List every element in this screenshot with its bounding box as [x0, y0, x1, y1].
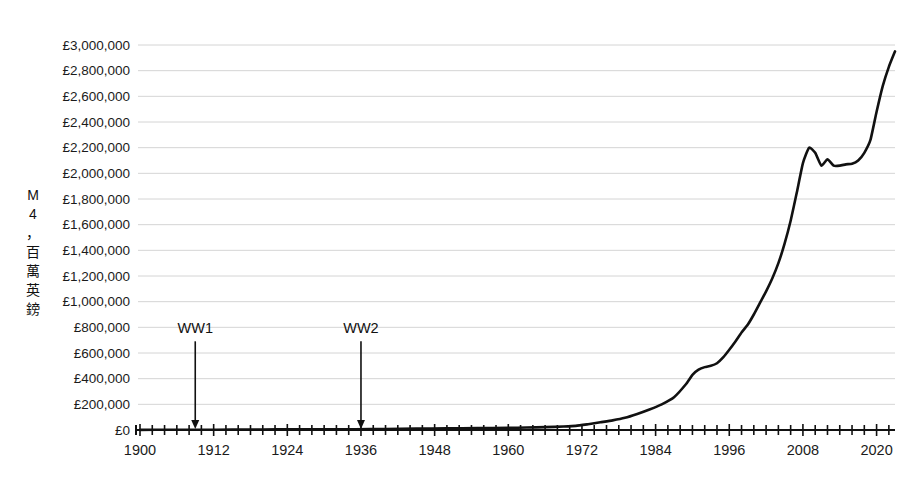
x-tick-label: 1924 — [271, 442, 303, 458]
y-tick-label: £200,000 — [74, 397, 130, 412]
y-axis-title-char: M — [27, 187, 39, 203]
x-tick-label: 1984 — [639, 442, 671, 458]
x-tick-label: 2008 — [787, 442, 819, 458]
x-tick-label: 1900 — [124, 442, 156, 458]
chart-container: £0£200,000£400,000£600,000£800,000£1,000… — [0, 0, 914, 492]
annotations-group: WW1WW2 — [178, 320, 379, 429]
annotation-label: WW2 — [343, 320, 378, 336]
x-tick-label: 1960 — [492, 442, 524, 458]
y-axis-title-char: 英 — [26, 282, 40, 298]
y-tick-label: £2,000,000 — [62, 166, 130, 181]
y-tick-label: £1,600,000 — [62, 217, 130, 232]
y-tick-label: £0 — [115, 423, 130, 438]
y-axis-title: M4，百萬英鎊 — [26, 187, 40, 317]
x-tick-label: 1972 — [566, 442, 598, 458]
x-tick-label: 1948 — [419, 442, 451, 458]
x-tick-label: 1936 — [345, 442, 377, 458]
y-tick-label: £1,400,000 — [62, 243, 130, 258]
y-axis-title-char: 百 — [26, 244, 40, 260]
m4-money-supply-line-chart: £0£200,000£400,000£600,000£800,000£1,000… — [0, 0, 914, 492]
y-tick-label: £1,000,000 — [62, 294, 130, 309]
y-axis-title-char: 萬 — [26, 263, 40, 279]
annotation-label: WW1 — [178, 320, 213, 336]
y-tick-label: £2,200,000 — [62, 140, 130, 155]
y-axis-title-char: 鎊 — [26, 301, 40, 317]
y-tick-labels: £0£200,000£400,000£600,000£800,000£1,000… — [62, 38, 130, 438]
y-tick-label: £1,200,000 — [62, 269, 130, 284]
gridlines-group — [138, 45, 895, 404]
y-tick-label: £1,800,000 — [62, 192, 130, 207]
data-series-group — [140, 51, 895, 429]
annotation-arrow-head — [357, 420, 365, 429]
x-tick-label: 1996 — [713, 442, 745, 458]
y-tick-label: £2,400,000 — [62, 115, 130, 130]
y-tick-label: £800,000 — [74, 320, 130, 335]
data-series-line — [140, 51, 895, 429]
y-tick-label: £2,800,000 — [62, 63, 130, 78]
y-tick-label: £600,000 — [74, 346, 130, 361]
annotation-arrow-head — [191, 420, 199, 429]
y-axis-title-char: ， — [26, 225, 40, 241]
x-tick-labels: 1900191219241936194819601972198419962008… — [124, 442, 893, 458]
y-tick-label: £2,600,000 — [62, 89, 130, 104]
x-tick-label: 2020 — [860, 442, 892, 458]
y-tick-label: £400,000 — [74, 371, 130, 386]
y-tick-label: £3,000,000 — [62, 38, 130, 53]
y-axis-title-char: 4 — [29, 206, 37, 222]
x-tick-label: 1912 — [198, 442, 230, 458]
